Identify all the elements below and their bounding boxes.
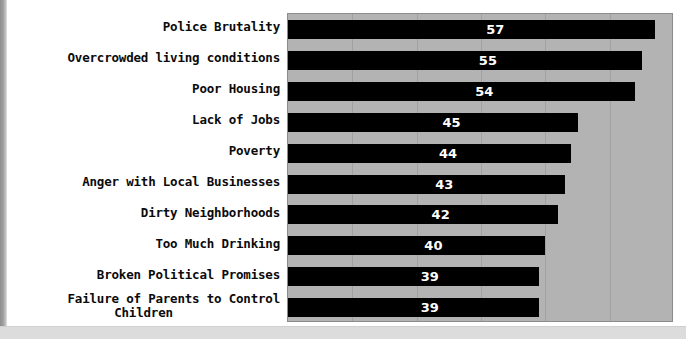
bar[interactable] [288, 144, 571, 163]
bar[interactable] [288, 205, 558, 224]
category-label: Anger with Local Businesses [7, 175, 280, 189]
bar-value-label: 55 [479, 51, 497, 70]
category-label: Poverty [7, 144, 280, 158]
bar[interactable] [288, 175, 565, 194]
bar-row[interactable]: 39 [288, 261, 672, 292]
bar-value-label: 43 [435, 175, 453, 194]
category-label-line1: Overcrowded living conditions [68, 50, 280, 65]
category-label-line1: Too Much Drinking [155, 236, 280, 251]
category-label-line1: Poverty [229, 143, 280, 158]
bar-row[interactable]: 54 [288, 76, 672, 107]
bar[interactable] [288, 267, 539, 286]
bar-row[interactable]: 39 [288, 292, 672, 322]
category-label: Failure of Parents to ControlChildren [7, 292, 280, 320]
category-label-column: Police BrutalityOvercrowded living condi… [7, 13, 284, 322]
category-label-line1: Poor Housing [192, 81, 280, 96]
bar-value-label: 39 [421, 298, 439, 317]
category-label: Overcrowded living conditions [7, 51, 280, 65]
bar-row[interactable]: 40 [288, 230, 672, 261]
category-label-line1: Dirty Neighborhoods [141, 205, 280, 220]
category-label-line1: Lack of Jobs [192, 112, 280, 127]
category-label-line1: Broken Political Promises [97, 267, 280, 282]
bar-row[interactable]: 45 [288, 107, 672, 138]
category-label-line1: Police Brutality [163, 19, 280, 34]
bar-row[interactable]: 57 [288, 14, 672, 45]
bar-value-label: 44 [439, 144, 457, 163]
category-label: Broken Political Promises [7, 268, 280, 282]
bar[interactable] [288, 298, 539, 317]
category-label-line1: Failure of Parents to Control [68, 291, 280, 306]
bar-value-label: 45 [443, 113, 461, 132]
plot-area: 57555445444342403939 [287, 13, 673, 322]
bar-row[interactable]: 44 [288, 138, 672, 169]
bar[interactable] [288, 113, 578, 132]
bar-row[interactable]: 55 [288, 45, 672, 76]
chart-page: Police BrutalityOvercrowded living condi… [0, 0, 686, 339]
bar[interactable] [288, 51, 642, 70]
bar-value-label: 40 [424, 236, 442, 255]
category-label: Poor Housing [7, 82, 280, 96]
bar-row[interactable]: 42 [288, 199, 672, 230]
scan-edge-artifact-bottom [0, 326, 686, 339]
category-label-line2: Children [7, 306, 280, 320]
scan-edge-artifact-left [0, 0, 7, 327]
category-label: Lack of Jobs [7, 113, 280, 127]
category-label: Police Brutality [7, 20, 280, 34]
bar-value-label: 42 [432, 205, 450, 224]
category-label: Too Much Drinking [7, 237, 280, 251]
bar-row[interactable]: 43 [288, 169, 672, 200]
bar[interactable] [288, 236, 545, 255]
bar-value-label: 54 [475, 82, 493, 101]
category-label: Dirty Neighborhoods [7, 206, 280, 220]
bar[interactable] [288, 20, 655, 39]
category-label-line1: Anger with Local Businesses [82, 174, 280, 189]
bar[interactable] [288, 82, 635, 101]
bar-value-label: 39 [421, 267, 439, 286]
bar-value-label: 57 [486, 20, 504, 39]
